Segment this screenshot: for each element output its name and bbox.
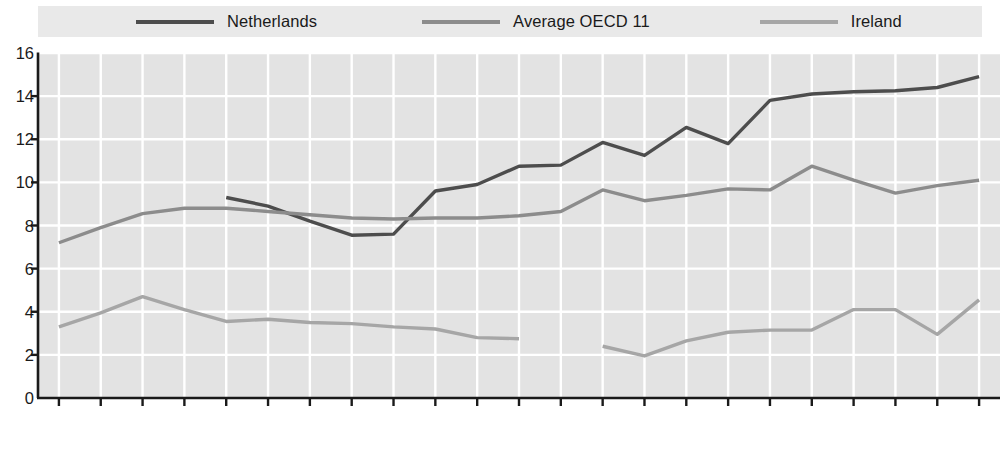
chart-page: Netherlands Average OECD 11 Ireland 0246…	[0, 0, 1002, 451]
y-axis-label: 8	[25, 217, 34, 234]
legend-swatch-ireland	[760, 20, 838, 24]
legend-label-oecd11: Average OECD 11	[513, 13, 650, 30]
y-axis-tick-labels: 0246810121416	[0, 45, 34, 410]
y-axis-label: 0	[25, 390, 34, 407]
y-axis-label: 2	[25, 347, 34, 364]
y-axis-label: 10	[16, 174, 34, 191]
y-axis-label: 4	[25, 304, 34, 321]
legend-swatch-oecd11	[422, 20, 500, 24]
legend-label-netherlands: Netherlands	[227, 13, 317, 30]
y-axis-label: 14	[16, 88, 34, 105]
chart-plot-area: 0246810121416 19831985198719891991199319…	[0, 45, 1002, 410]
chart-legend: Netherlands Average OECD 11 Ireland	[38, 6, 982, 37]
legend-swatch-netherlands	[136, 20, 214, 24]
legend-item-netherlands[interactable]: Netherlands	[136, 6, 317, 37]
legend-label-ireland: Ireland	[851, 13, 902, 30]
legend-item-oecd11[interactable]: Average OECD 11	[422, 6, 650, 37]
y-axis-label: 12	[16, 131, 34, 148]
chart-canvas	[0, 45, 1002, 410]
y-axis-label: 16	[16, 45, 34, 62]
y-axis-label: 6	[25, 260, 34, 277]
legend-item-ireland[interactable]: Ireland	[760, 6, 902, 37]
